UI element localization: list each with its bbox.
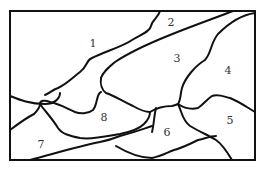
boundary-4-5 <box>178 95 255 112</box>
region-map-diagram: 1 2 3 4 5 6 7 8 <box>0 0 266 181</box>
boundary-1-2 <box>45 11 160 95</box>
boundary-3-8 <box>101 78 150 112</box>
boundary-5-6 <box>178 104 232 160</box>
boundary-8-top <box>40 92 101 113</box>
boundary-7-8 <box>40 104 150 139</box>
boundary-7-left <box>10 104 40 130</box>
region-label-6: 6 <box>164 126 171 139</box>
region-label-4: 4 <box>225 64 232 77</box>
region-label-5: 5 <box>227 114 234 127</box>
region-label-3: 3 <box>174 52 181 65</box>
boundary-6-bottom <box>116 136 216 158</box>
region-label-1: 1 <box>90 37 97 50</box>
region-label-8: 8 <box>101 111 108 124</box>
region-label-7: 7 <box>38 138 45 151</box>
boundary-3-6 <box>150 104 178 112</box>
region-label-2: 2 <box>168 16 175 29</box>
